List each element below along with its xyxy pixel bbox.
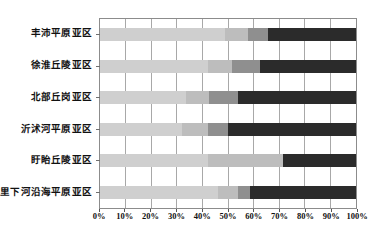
bar-segment[interactable]: [225, 28, 248, 41]
bar-row: [100, 82, 356, 114]
category-label-text: 徐淮丘陵亚区: [31, 61, 92, 71]
plot-inner: [100, 19, 356, 208]
bar-segment[interactable]: [100, 28, 225, 41]
category-axis: 丰沛平原亚区 徐淮丘陵亚区 北部丘岗亚区 沂沭河平原亚区 盱眙丘陵亚区 里下河沿…: [0, 18, 96, 209]
bar-row: [100, 145, 356, 177]
bar-segment[interactable]: [208, 154, 284, 167]
bar-segment[interactable]: [100, 123, 182, 136]
x-axis-tick-label: 80%: [297, 212, 314, 221]
bar-row: [100, 19, 356, 51]
category-label-0: 丰沛平原亚区: [0, 18, 96, 50]
category-label-5: 里下河沿海平原亚区: [0, 177, 96, 209]
bar-segment[interactable]: [182, 123, 208, 136]
bar-segment[interactable]: [248, 28, 267, 41]
bar-segment[interactable]: [100, 60, 208, 73]
bar-segment[interactable]: [208, 60, 232, 73]
category-label-2: 北部丘岗亚区: [0, 82, 96, 114]
stacked-bar[interactable]: [100, 186, 356, 199]
bar-segment[interactable]: [209, 91, 238, 104]
category-label-text: 盱眙丘陵亚区: [31, 156, 92, 166]
bar-row: [100, 114, 356, 146]
bar-segment[interactable]: [232, 60, 260, 73]
bar-segment[interactable]: [100, 186, 218, 199]
stacked-bar[interactable]: [100, 123, 356, 136]
bar-row: [100, 177, 356, 209]
bar-segment[interactable]: [283, 154, 356, 167]
x-axis-tick-label: 30%: [168, 212, 185, 221]
x-axis-tick-label: 40%: [194, 212, 211, 221]
category-label-4: 盱眙丘陵亚区: [0, 145, 96, 177]
bar-segment[interactable]: [100, 91, 186, 104]
stacked-bar-chart: 丰沛平原亚区 徐淮丘陵亚区 北部丘岗亚区 沂沭河平原亚区 盱眙丘陵亚区 里下河沿…: [0, 0, 380, 247]
plot-area: [99, 18, 357, 209]
bar-segment[interactable]: [268, 28, 356, 41]
x-axis-tick-label: 70%: [271, 212, 288, 221]
x-axis-labels: 0%10%20%30%40%50%60%70%80%90%100%: [99, 212, 357, 226]
bar-segment[interactable]: [100, 154, 208, 167]
bar-segment[interactable]: [228, 123, 356, 136]
category-label-text: 沂沭河平原亚区: [21, 125, 92, 135]
bar-segment[interactable]: [218, 186, 238, 199]
x-axis-tick-label: 50%: [220, 212, 237, 221]
bar-segment[interactable]: [186, 91, 209, 104]
category-label-3: 沂沭河平原亚区: [0, 113, 96, 145]
stacked-bar[interactable]: [100, 154, 356, 167]
x-axis-tick-label: 20%: [142, 212, 159, 221]
category-label-text: 里下河沿海平原亚区: [0, 188, 92, 198]
bar-segment[interactable]: [250, 186, 356, 199]
stacked-bar[interactable]: [100, 60, 356, 73]
bar-segment[interactable]: [260, 60, 356, 73]
x-axis-tick-label: 60%: [245, 212, 262, 221]
bar-segment[interactable]: [208, 123, 228, 136]
x-axis-tick-label: 10%: [116, 212, 133, 221]
x-axis-tick-label: 100%: [346, 212, 367, 221]
stacked-bar[interactable]: [100, 91, 356, 104]
bar-row: [100, 51, 356, 83]
bar-rows: [100, 19, 356, 208]
x-axis-tick-label: 90%: [323, 212, 340, 221]
category-label-text: 北部丘岗亚区: [31, 93, 92, 103]
bar-segment[interactable]: [238, 91, 356, 104]
category-label-1: 徐淮丘陵亚区: [0, 50, 96, 82]
bar-segment[interactable]: [238, 186, 250, 199]
category-label-text: 丰沛平原亚区: [31, 29, 92, 39]
x-axis-tick-label: 0%: [93, 212, 106, 221]
stacked-bar[interactable]: [100, 28, 356, 41]
